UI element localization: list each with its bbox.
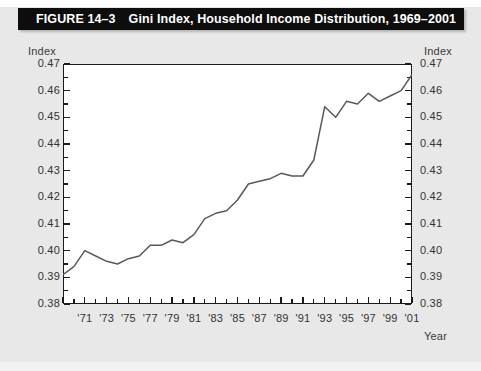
y-tick-label-left-0.43: 0.43 <box>38 164 60 176</box>
x-tick-label-1989: '89 <box>274 312 289 324</box>
y-tick-label-left-0.44: 0.44 <box>38 137 60 149</box>
x-tick-label-1981: '81 <box>186 312 201 324</box>
figure-title-bar: FIGURE 14–3Gini Index, Household Income … <box>18 8 464 30</box>
y-tick-label-left-0.47: 0.47 <box>38 57 60 69</box>
y-tick-label-right-0.47: 0.47 <box>420 57 442 69</box>
x-tick-label-1973: '73 <box>99 312 114 324</box>
y-tick-label-right-0.46: 0.46 <box>420 84 442 96</box>
page-title: Gini Index, Household Income Distributio… <box>129 12 457 26</box>
figure-title-text: FIGURE 14–3Gini Index, Household Income … <box>18 12 456 26</box>
left-axis-caption: Index <box>28 45 56 57</box>
x-tick-label-1987: '87 <box>252 312 267 324</box>
x-tick-label-1993: '93 <box>317 312 332 324</box>
y-tick-label-right-0.39: 0.39 <box>420 270 442 282</box>
x-tick-label-1999: '99 <box>383 312 398 324</box>
y-tick-label-left-0.45: 0.45 <box>38 110 60 122</box>
right-axis-caption: Index <box>424 45 452 57</box>
x-tick-label-1975: '75 <box>121 312 136 324</box>
x-axis-caption: Year <box>424 330 447 342</box>
y-tick-label-left-0.42: 0.42 <box>38 190 60 202</box>
chart-area: Index Index Year 0.380.390.400.410.420.4… <box>0 34 481 362</box>
gini-index-line-chart <box>63 64 412 304</box>
y-tick-label-right-0.40: 0.40 <box>420 244 442 256</box>
y-tick-label-left-0.46: 0.46 <box>38 84 60 96</box>
y-tick-label-right-0.38: 0.38 <box>420 297 442 309</box>
y-tick-label-left-0.40: 0.40 <box>38 244 60 256</box>
x-tick-label-1977: '77 <box>143 312 158 324</box>
x-tick-label-1983: '83 <box>208 312 223 324</box>
y-tick-label-left-0.39: 0.39 <box>38 270 60 282</box>
page-top-margin <box>0 0 481 7</box>
y-tick-label-right-0.42: 0.42 <box>420 190 442 202</box>
y-tick-label-right-0.41: 0.41 <box>420 217 442 229</box>
x-tick-label-1995: '95 <box>339 312 354 324</box>
x-tick-label-1985: '85 <box>230 312 245 324</box>
x-tick-label-1971: '71 <box>77 312 92 324</box>
x-tick-label-1991: '91 <box>295 312 310 324</box>
y-tick-label-right-0.44: 0.44 <box>420 137 442 149</box>
figure-container: FIGURE 14–3Gini Index, Household Income … <box>0 0 481 371</box>
y-tick-label-right-0.45: 0.45 <box>420 110 442 122</box>
y-tick-label-left-0.41: 0.41 <box>38 217 60 229</box>
y-tick-label-left-0.38: 0.38 <box>38 297 60 309</box>
page-bottom-margin <box>0 362 481 371</box>
x-tick-label-2001: '01 <box>405 312 420 324</box>
gini-index-data-line <box>63 75 412 275</box>
x-tick-label-1997: '97 <box>361 312 376 324</box>
x-tick-label-1979: '79 <box>165 312 180 324</box>
figure-number: FIGURE 14–3 <box>36 12 116 26</box>
y-tick-label-right-0.43: 0.43 <box>420 164 442 176</box>
